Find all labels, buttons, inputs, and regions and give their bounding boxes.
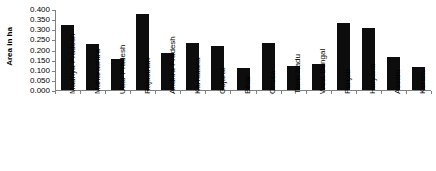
y-axis-tick-mark bbox=[52, 61, 55, 62]
y-axis-title-text: Area in ha bbox=[5, 27, 14, 66]
x-axis-tick-label-text: Madhya Pradesh bbox=[68, 34, 77, 94]
x-axis-tick-label-text: Assam bbox=[393, 70, 402, 94]
x-axis-tick-label-text: West Bengal bbox=[318, 49, 327, 94]
x-axis-tick-label-text: Andhra Pradesh bbox=[168, 36, 177, 94]
y-axis-tick-label: 0.150 bbox=[17, 57, 50, 65]
x-axis-tick-label-text: Orissa bbox=[268, 71, 277, 94]
bar-chart: Area in ha 0.4000.3500.3000.2500.2000.15… bbox=[0, 0, 436, 171]
y-axis-title: Area in ha bbox=[0, 0, 18, 92]
x-axis-tick-label-text: Karnataka bbox=[193, 58, 202, 94]
y-axis-tick-mark bbox=[52, 40, 55, 41]
y-axis-tick-label: 0.250 bbox=[17, 36, 50, 44]
x-axis-tick-mark bbox=[431, 91, 432, 94]
y-axis-tick-label: 0.000 bbox=[17, 87, 50, 95]
y-axis-tick-label: 0.350 bbox=[17, 16, 50, 24]
y-axis-tick-label: 0.100 bbox=[17, 67, 50, 75]
x-axis-tick-label-text: Bihar bbox=[243, 75, 252, 94]
y-axis-tick-mark bbox=[52, 81, 55, 82]
y-axis-line bbox=[55, 10, 56, 91]
y-axis-tick-mark bbox=[52, 71, 55, 72]
y-axis-tick-mark bbox=[52, 51, 55, 52]
x-axis-tick-label-text: Rajasthan bbox=[143, 58, 152, 94]
y-axis-tick-label: 0.300 bbox=[17, 26, 50, 34]
x-axis-tick-label-text: Kerala bbox=[418, 71, 427, 94]
y-axis-tick-mark bbox=[52, 20, 55, 21]
y-axis-tick-label: 0.400 bbox=[17, 6, 50, 14]
y-axis-tick-mark bbox=[52, 30, 55, 31]
x-axis-category-labels: Madhya PradeshMaharashtraUttar PradeshRa… bbox=[55, 94, 431, 171]
y-axis-tick-labels: 0.4000.3500.3000.2500.2000.1500.1000.050… bbox=[17, 6, 50, 92]
x-axis-tick-label-text: Maharashtra bbox=[93, 49, 102, 94]
x-axis-tick-label-text: Punjab bbox=[343, 69, 352, 94]
y-axis-tick-label: 0.200 bbox=[17, 47, 50, 55]
y-axis-tick-label: 0.050 bbox=[17, 77, 50, 85]
x-axis-tick-label-text: Uttar Pradesh bbox=[118, 45, 127, 94]
x-axis-tick-label-text: Haryana bbox=[368, 64, 377, 94]
x-axis-tick-label-text: Gujarat bbox=[218, 68, 227, 94]
x-axis-tick-label-text: Tamil Nadu bbox=[293, 54, 302, 94]
y-axis-tick-mark bbox=[52, 10, 55, 11]
